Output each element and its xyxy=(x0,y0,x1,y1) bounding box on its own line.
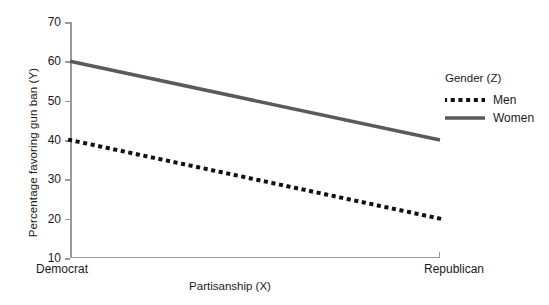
legend-swatch-women-icon xyxy=(445,112,485,124)
legend-item-men[interactable]: Men xyxy=(445,91,549,109)
legend-label: Men xyxy=(493,93,516,107)
x-tick-label-republican: Republican xyxy=(424,262,484,276)
y-tick-label: 20 xyxy=(48,212,61,226)
interaction-line-chart: Percentage favoring gun ban (Y) 10203040… xyxy=(0,0,549,305)
y-axis-title: Percentage favoring gun ban (Y) xyxy=(22,0,44,305)
y-tick-label: 60 xyxy=(48,54,61,68)
x-tick-label-democrat: Democrat xyxy=(36,262,88,276)
plot-area: 10203040506070 xyxy=(70,22,440,258)
y-tick-mark xyxy=(65,258,70,260)
legend-title: Gender (Z) xyxy=(445,72,549,84)
legend-swatch-men-icon xyxy=(445,94,485,106)
y-tick-label: 40 xyxy=(48,133,61,147)
series-line-women xyxy=(70,61,440,140)
y-tick-label: 50 xyxy=(48,94,61,108)
y-tick-label: 30 xyxy=(48,172,61,186)
series-layer xyxy=(70,22,440,258)
legend: Gender (Z) MenWomen xyxy=(445,72,549,127)
legend-label: Women xyxy=(493,111,534,125)
y-tick-label: 70 xyxy=(48,15,61,29)
series-line-men xyxy=(70,140,440,219)
legend-item-women[interactable]: Women xyxy=(445,109,549,127)
x-axis-title: Partisanship (X) xyxy=(0,280,460,292)
